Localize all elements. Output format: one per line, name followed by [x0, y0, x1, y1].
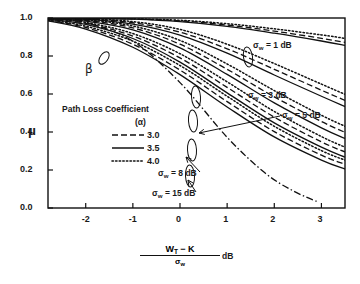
x-axis-unit: dB — [222, 251, 233, 261]
y-axis-title: μ — [28, 123, 36, 138]
annotation-sigma-w-3db: σw = 3 dB — [248, 90, 287, 101]
legend-value-1: 3.5 — [147, 143, 160, 153]
x-tick-label-4: 2 — [270, 214, 275, 224]
annotation-sigma-w-5db: σw = 5 dB — [282, 110, 321, 121]
annotation-beta: β — [85, 62, 93, 76]
annotation-sigma-w-15db: σw = 15 dB — [152, 188, 195, 199]
x-axis-title: WT − K σw — [140, 244, 220, 266]
legend-alpha-symbol: (α) — [135, 117, 146, 127]
y-tick-label-5: 1.0 — [20, 12, 33, 22]
legend-value-0: 3.0 — [147, 130, 160, 140]
legend-sample-lines — [112, 135, 144, 161]
x-tick-label-0: -2 — [82, 214, 90, 224]
annotation-sigma-w-8db: σw = 8 dB — [158, 168, 197, 179]
y-tick-label-0: 0.0 — [20, 202, 33, 212]
x-axis-title-denominator: σw — [140, 256, 220, 267]
y-tick-label-3: 0.6 — [20, 88, 33, 98]
annotation-sigma-w-1db: σw = 1 dB — [253, 40, 292, 51]
y-tick-label-1: 0.2 — [20, 164, 33, 174]
x-tick-label-5: 3 — [317, 214, 322, 224]
x-axis-title-numerator: WT − K — [140, 244, 220, 256]
x-tick-label-2: 0 — [176, 214, 181, 224]
legend-title: Path Loss Coefficient — [62, 104, 149, 114]
chart-figure — [0, 0, 360, 284]
y-tick-label-4: 0.8 — [20, 50, 33, 60]
legend-value-2: 4.0 — [147, 156, 160, 166]
x-tick-label-3: 1 — [223, 214, 228, 224]
x-tick-label-1: -1 — [129, 214, 137, 224]
